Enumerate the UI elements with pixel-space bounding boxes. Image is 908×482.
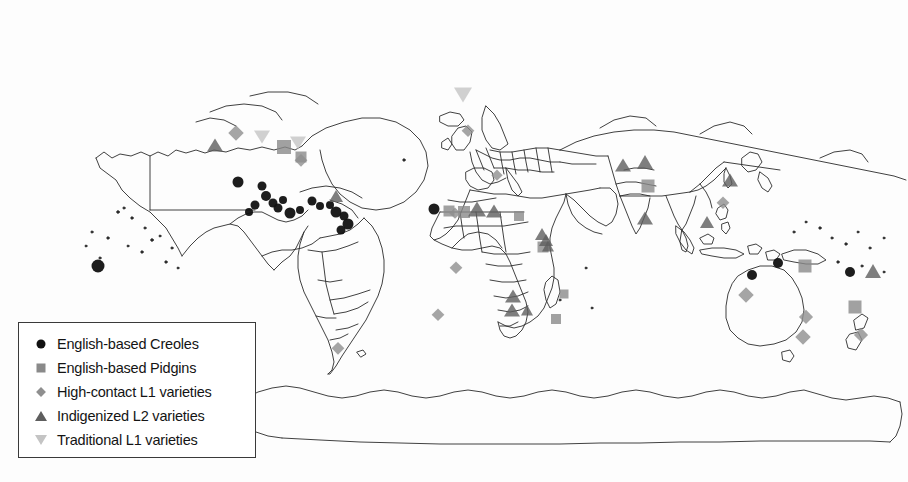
map-marker-circle [92,260,105,273]
pidgin-square-icon [31,358,51,378]
map-marker-square [799,260,812,273]
map-marker-triangle-up [468,202,486,217]
map-marker-triangle-up [637,155,653,169]
map-marker-triangle-down [454,88,472,103]
map-marker-circle [251,201,260,210]
legend-item-creoles: English-based Creoles [31,332,245,356]
map-marker-square [514,211,524,221]
map-marker-circle [845,267,855,277]
traditional-triangle-down-icon [31,430,51,450]
map-marker-circle [285,208,296,219]
map-marker-square [551,314,561,324]
map-marker-triangle-up [722,174,738,187]
map-marker-circle [245,208,253,216]
map-marker-triangle-up [329,190,343,202]
legend-item-high-contact-l1: High-contact L1 varieties [31,380,245,404]
indigenized-triangle-up-icon [31,406,51,426]
map-marker-triangle-up [700,216,714,228]
legend-item-indigenized-l2: Indigenized L2 varieties [31,404,245,428]
map-marker-square [849,301,862,314]
legend-label: Indigenized L2 varieties [57,408,205,424]
map-marker-triangle-up [505,290,521,303]
map-marker-triangle-up [207,139,223,152]
map-marker-triangle-up [615,159,631,172]
map-marker-triangle-up [865,264,881,278]
map-marker-triangle-down [290,137,306,150]
map-marker-circle [316,202,324,210]
map-marker-triangle-up [521,305,533,316]
high-contact-diamond-icon [31,382,51,402]
map-marker-triangle-up [542,241,554,252]
map-marker-circle [296,206,304,214]
legend-label: Traditional L1 varieties [57,432,198,448]
map-legend: English-based Creoles English-based Pidg… [18,322,256,458]
map-marker-circle [337,226,346,235]
map-marker-triangle-up [486,205,502,218]
creole-circle-icon [31,334,51,354]
map-marker-triangle-up [637,212,653,225]
legend-label: High-contact L1 varieties [57,384,212,400]
map-marker-circle [233,177,244,188]
map-marker-square [642,180,655,193]
map-figure: English-based Creoles English-based Pidg… [0,0,908,482]
map-marker-square [560,290,569,299]
map-marker-triangle-down [254,131,270,144]
legend-item-pidgins: English-based Pidgins [31,356,245,380]
legend-label: English-based Creoles [57,336,199,352]
map-marker-circle [747,270,757,280]
map-marker-circle [773,258,783,268]
map-marker-triangle-up [504,304,520,317]
map-marker-circle [258,182,267,191]
legend-item-traditional-l1: Traditional L1 varieties [31,428,245,452]
legend-label: English-based Pidgins [57,360,196,376]
map-marker-square [277,140,291,154]
map-marker-circle [274,204,283,213]
map-marker-circle [279,196,287,204]
map-marker-circle [429,204,440,215]
